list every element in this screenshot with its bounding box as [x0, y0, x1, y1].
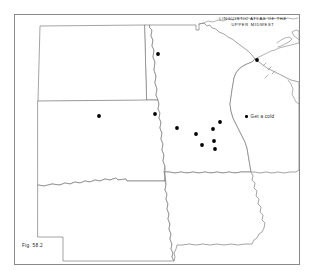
figure-root: LINGUISTIC ATLAS OF THE UPPER MIDWEST Ge… — [0, 0, 315, 280]
legend-dot-icon — [245, 115, 248, 118]
figure-number-label: Fig. 58.2 — [22, 243, 43, 248]
map-title-line-2: UPPER MIDWEST — [206, 22, 300, 28]
legend-label: Get a cold — [251, 114, 275, 119]
map-title: LINGUISTIC ATLAS OF THE UPPER MIDWEST — [206, 16, 300, 29]
legend: Get a cold — [245, 114, 274, 119]
map-frame-border — [14, 14, 300, 265]
